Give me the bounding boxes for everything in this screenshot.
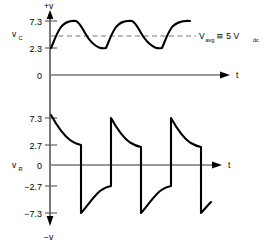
upper-yticklabel-7p3: 7.3: [29, 17, 42, 27]
upper-axis-up-arrowhead: [47, 10, 54, 19]
annotation-v-sub2: dc: [253, 37, 259, 43]
lower-yticklabel-neg2p7: −2.7: [24, 182, 42, 192]
upper-series-label-sub: C: [19, 35, 23, 41]
upper-yticklabel-0: 0: [37, 71, 42, 81]
capacitor-voltage-trace: [51, 21, 190, 48]
annotation-v-main: V: [199, 31, 205, 41]
annotation-approx-value: ≅ 5 V: [216, 31, 239, 41]
panel-capacitor-voltage: +v t 7.3 2.3 0 v C V avg ≅ 5 V: [12, 1, 259, 108]
lower-yticklabel-7p3: 7.3: [29, 114, 42, 124]
lower-axis-down-arrowhead: [47, 216, 54, 226]
lower-time-axis-arrowhead: [212, 161, 222, 168]
upper-yticklabel-2p3: 2.3: [29, 44, 42, 54]
upper-series-label-main: v: [12, 29, 17, 39]
annotation-v-sub: avg: [206, 37, 215, 43]
resistor-voltage-trace: [51, 115, 211, 213]
lower-xaxis-label: t: [228, 160, 231, 170]
panel-resistor-voltage: −v t 7.3 2.7 0 −2.7 −7.3 v R: [12, 108, 231, 242]
lower-series-label: v R: [12, 160, 23, 172]
upper-axis-top-label: +v: [44, 1, 54, 11]
upper-xaxis-label: t: [236, 70, 239, 80]
lower-yticklabel-2p7: 2.7: [29, 141, 42, 151]
lower-yticklabel-0: 0: [37, 161, 42, 171]
waveform-figure: +v t 7.3 2.3 0 v C V avg ≅ 5 V: [0, 0, 266, 244]
lower-yticklabel-neg7p3: −7.3: [24, 209, 42, 219]
waveform-svg: +v t 7.3 2.3 0 v C V avg ≅ 5 V: [0, 0, 266, 244]
average-voltage-annotation: V avg ≅ 5 V dc: [199, 31, 259, 43]
lower-axis-bottom-label: −v: [44, 232, 54, 242]
lower-series-label-main: v: [12, 160, 17, 170]
upper-series-label: v C: [12, 29, 23, 41]
upper-time-axis-arrowhead: [220, 71, 230, 78]
lower-series-label-sub: R: [19, 166, 23, 172]
